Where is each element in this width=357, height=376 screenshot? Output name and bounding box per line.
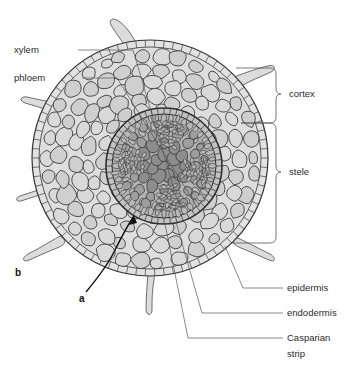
label-casparian-strip-line1: Casparian [287,332,330,343]
cell [115,253,131,267]
label-xylem: xylem [14,44,39,55]
root-cross-section-figure: xylem phloem cortex stele epidermis endo… [0,0,357,376]
label-marker-b: b [15,267,21,278]
cell [155,115,158,121]
cell [91,121,103,135]
cell [243,131,258,148]
cell [165,81,181,96]
cell [180,127,184,130]
cell [156,199,162,203]
label-cortex: cortex [289,88,315,99]
cell [91,203,105,218]
cell [230,97,242,111]
cell [137,138,146,148]
cell [143,75,162,88]
cell [84,82,99,97]
cell [135,50,150,63]
label-phloem: phloem [14,72,45,83]
cell [169,51,186,66]
cell [48,112,61,127]
cell [249,151,258,163]
label-epidermis: epidermis [287,282,328,293]
label-stele: stele [289,166,309,177]
label-casparian-strip-line2: strip [287,348,305,359]
cell [155,206,161,210]
label-marker-a: a [79,293,85,304]
cell [195,96,208,110]
cell [220,218,234,233]
cell [130,173,138,182]
label-endodermis: endodermis [287,307,337,318]
cell [62,115,74,129]
cell [150,258,162,269]
cell [176,138,180,141]
cell [249,166,260,181]
